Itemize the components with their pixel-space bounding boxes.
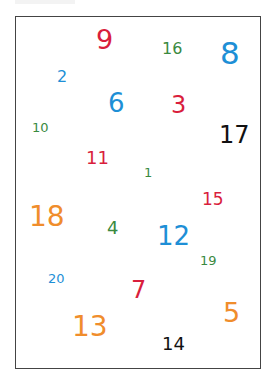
number-tile-18[interactable]: 18 — [29, 203, 65, 231]
number-tile-3[interactable]: 3 — [171, 93, 186, 117]
number-tile-19[interactable]: 19 — [200, 254, 217, 267]
number-tile-16[interactable]: 16 — [162, 41, 182, 57]
number-tile-8[interactable]: 8 — [220, 38, 240, 69]
number-tile-6[interactable]: 6 — [108, 90, 125, 116]
number-tile-13[interactable]: 13 — [72, 313, 108, 341]
cropped-heading-text — [15, 0, 75, 4]
number-tile-20[interactable]: 20 — [48, 272, 65, 285]
number-tile-15[interactable]: 15 — [202, 191, 224, 208]
number-tile-9[interactable]: 9 — [96, 26, 113, 53]
number-tile-2[interactable]: 2 — [57, 69, 67, 85]
number-tile-1[interactable]: 1 — [144, 166, 152, 179]
number-tile-5[interactable]: 5 — [223, 299, 240, 326]
number-tile-12[interactable]: 12 — [157, 223, 190, 249]
number-tile-10[interactable]: 10 — [32, 121, 49, 134]
number-tile-11[interactable]: 11 — [86, 149, 109, 167]
number-tile-14[interactable]: 14 — [162, 335, 185, 353]
number-tile-7[interactable]: 7 — [131, 278, 146, 302]
number-tile-4[interactable]: 4 — [107, 219, 118, 237]
number-tile-17[interactable]: 17 — [219, 123, 250, 147]
